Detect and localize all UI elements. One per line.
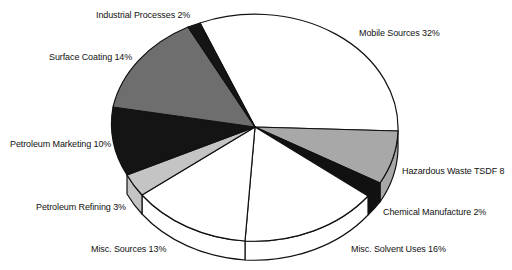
label-misc-sources: Misc. Sources 13% — [91, 244, 166, 254]
label-hazardous-waste: Hazardous Waste TSDF 8 — [402, 166, 504, 176]
label-mobile-sources: Mobile Sources 32% — [359, 28, 440, 38]
label-chemical-manufacture: Chemical Manufacture 2% — [383, 207, 486, 217]
label-misc-solvent-uses: Misc. Solvent Uses 16% — [351, 244, 446, 254]
label-petroleum-marketing: Petroleum Marketing 10% — [10, 139, 111, 149]
label-petroleum-refining: Petroleum Refining 3% — [36, 202, 126, 212]
pie-top-faces — [112, 14, 399, 241]
pie-chart — [0, 0, 512, 270]
label-surface-coating: Surface Coating 14% — [49, 52, 132, 62]
label-industrial-processes: Industrial Processes 2% — [96, 10, 190, 20]
